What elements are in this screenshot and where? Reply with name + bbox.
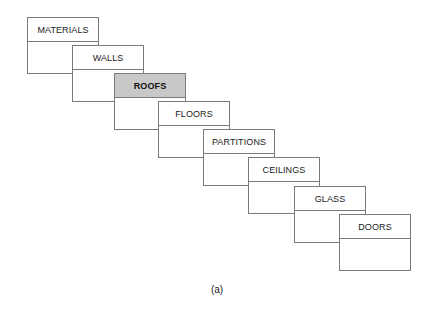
card-header-partitions[interactable]: PARTITIONS [204,130,274,154]
card-body-doors [340,239,410,270]
card-header-glass[interactable]: GLASS [295,187,365,211]
card-header-doors[interactable]: DOORS [340,215,410,239]
card-header-walls[interactable]: WALLS [73,46,143,70]
card-header-ceilings[interactable]: CEILINGS [249,158,319,182]
card-header-materials[interactable]: MATERIALS [28,18,98,42]
card-doors[interactable]: DOORS [339,214,411,271]
figure-caption: (a) [207,284,227,295]
card-header-roofs-selected[interactable]: ROOFS [115,74,185,98]
card-header-floors[interactable]: FLOORS [159,102,229,126]
